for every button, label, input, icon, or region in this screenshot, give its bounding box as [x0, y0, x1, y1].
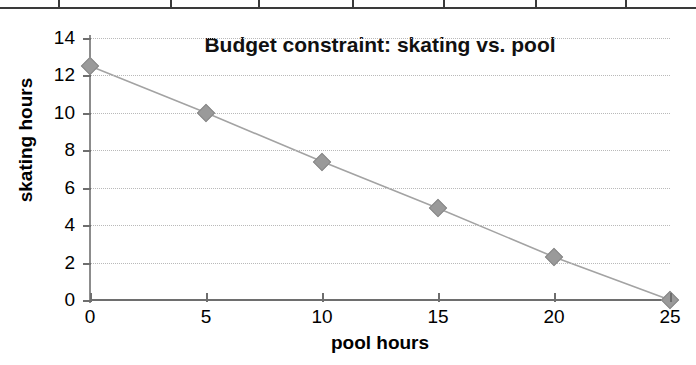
x-axis-tick	[554, 293, 556, 302]
y-axis-tick	[83, 75, 91, 77]
gridline-horizontal	[90, 225, 670, 226]
plot-area	[90, 38, 670, 300]
table-cell-divider	[258, 0, 260, 9]
x-axis-tick	[438, 293, 440, 302]
gridline-horizontal	[90, 75, 670, 76]
x-axis-tick	[206, 293, 208, 302]
table-cell-divider	[535, 0, 537, 9]
x-axis-tick	[670, 293, 672, 302]
y-axis-tick-label: 12	[30, 65, 75, 84]
y-axis-tick-label: 10	[30, 103, 75, 122]
y-axis-tick-label: 8	[30, 140, 75, 159]
table-cell-divider	[170, 0, 172, 9]
y-axis-tick-label: 4	[30, 215, 75, 234]
y-axis-tick	[83, 225, 91, 227]
gridline-horizontal	[90, 263, 670, 264]
y-axis-tick-label: 2	[30, 253, 75, 272]
y-axis-tick	[83, 38, 91, 40]
table-cell-divider	[352, 0, 354, 9]
y-axis-tick	[83, 263, 91, 265]
series-line	[90, 38, 670, 300]
gridline-horizontal	[90, 38, 670, 39]
x-axis-tick-label: 0	[60, 307, 120, 326]
gridline-horizontal	[90, 113, 670, 114]
y-axis-tick	[83, 150, 91, 152]
gridline-horizontal	[90, 188, 670, 189]
x-axis-tick-label: 10	[292, 307, 352, 326]
x-axis-tick	[322, 293, 324, 302]
table-cell-divider	[443, 0, 445, 9]
table-cell-divider	[625, 0, 627, 9]
y-axis-tick	[83, 113, 91, 115]
x-axis-tick-label: 15	[408, 307, 468, 326]
x-axis-tick-label: 25	[640, 307, 696, 326]
x-axis-tick-label: 5	[176, 307, 236, 326]
gridline-horizontal	[90, 150, 670, 151]
y-axis-tick	[83, 188, 91, 190]
x-axis-title: pool hours	[90, 332, 670, 354]
x-axis-tick	[90, 293, 92, 302]
cropped-table-row	[0, 0, 696, 9]
y-axis-tick-label: 14	[30, 28, 75, 47]
table-cell-divider	[58, 0, 60, 9]
chart-container: Budget constraint: skating vs. pool skat…	[0, 9, 696, 365]
y-axis-tick-label: 6	[30, 178, 75, 197]
x-axis-tick-label: 20	[524, 307, 584, 326]
